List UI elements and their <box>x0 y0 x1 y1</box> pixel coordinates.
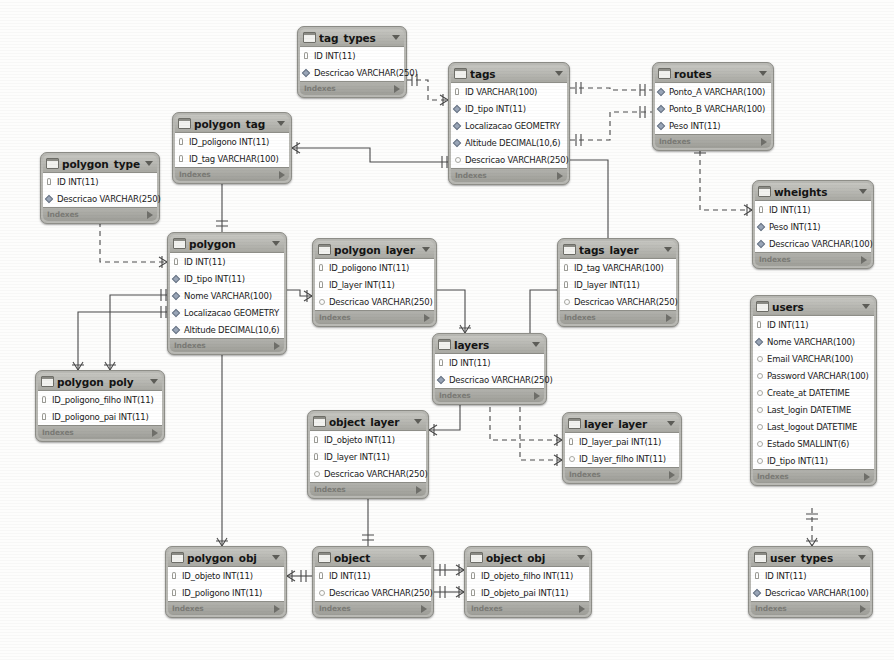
expand-indexes-icon[interactable] <box>534 392 540 400</box>
table-polygon_obj[interactable]: polygon_objID_objeto INT(11)ID_poligono … <box>165 546 287 618</box>
table-indexes-section-polygon_poly[interactable]: Indexes <box>38 426 162 439</box>
expand-indexes-icon[interactable] <box>666 314 672 322</box>
table-indexes-section-polygon_obj[interactable]: Indexes <box>168 602 284 615</box>
table-indexes-section-tags[interactable]: Indexes <box>451 169 567 182</box>
column-row[interactable]: ID INT(11) <box>435 354 544 371</box>
chevron-down-icon[interactable] <box>145 161 153 166</box>
chevron-down-icon[interactable] <box>272 241 280 246</box>
table-layer_layer[interactable]: layer_layerID_layer_pai INT(11)ID_layer_… <box>562 412 682 484</box>
table-routes[interactable]: routesPonto_A VARCHAR(100)Ponto_B VARCHA… <box>652 62 774 151</box>
chevron-down-icon[interactable] <box>150 379 158 384</box>
expand-indexes-icon[interactable] <box>861 256 867 264</box>
table-header-layers[interactable]: layers <box>435 336 544 353</box>
table-indexes-section-users[interactable]: Indexes <box>753 470 874 483</box>
table-users[interactable]: usersID INT(11)Nome VARCHAR(100)Email VA… <box>750 295 877 486</box>
column-row[interactable]: ID INT(11) <box>755 201 871 218</box>
column-row[interactable]: Altitude DECIMAL(10,6) <box>451 134 567 151</box>
column-row[interactable]: Estado SMALLINT(6) <box>753 435 874 452</box>
column-row[interactable]: ID_objeto_pai INT(11) <box>467 584 589 601</box>
column-row[interactable]: ID_tag VARCHAR(100) <box>560 259 676 276</box>
expand-indexes-icon[interactable] <box>147 211 153 219</box>
column-row[interactable]: Descricao VARCHAR(250) <box>310 465 426 482</box>
expand-indexes-icon[interactable] <box>860 605 866 613</box>
column-row[interactable]: ID INT(11) <box>751 567 870 584</box>
table-tags[interactable]: tagsID VARCHAR(100)ID_tipo INT(11)Locali… <box>448 62 570 185</box>
table-layers[interactable]: layersID INT(11)Descricao VARCHAR(250)In… <box>432 333 547 405</box>
column-row[interactable]: ID VARCHAR(100) <box>451 83 567 100</box>
table-polygon_tag[interactable]: polygon_tagID_poligono INT(11)ID_tag VAR… <box>172 112 292 184</box>
chevron-down-icon[interactable] <box>272 555 280 560</box>
column-row[interactable]: ID_layer INT(11) <box>315 276 434 293</box>
expand-indexes-icon[interactable] <box>152 429 158 437</box>
column-row[interactable]: Descricao VARCHAR(250) <box>451 151 567 168</box>
column-row[interactable]: Peso INT(11) <box>755 218 871 235</box>
table-header-object_obj[interactable]: object_obj <box>467 549 589 566</box>
expand-indexes-icon[interactable] <box>864 473 870 481</box>
column-row[interactable]: Nome VARCHAR(100) <box>170 287 284 304</box>
chevron-down-icon[interactable] <box>532 342 540 347</box>
table-header-polygon_type[interactable]: polygon_type <box>43 155 157 172</box>
column-row[interactable]: Localizacao GEOMETRY <box>451 117 567 134</box>
table-header-polygon_layer[interactable]: polygon_layer <box>315 241 434 258</box>
table-header-polygon_obj[interactable]: polygon_obj <box>168 549 284 566</box>
table-indexes-section-routes[interactable]: Indexes <box>655 135 771 148</box>
expand-indexes-icon[interactable] <box>424 314 430 322</box>
table-header-tags_layer[interactable]: tags_layer <box>560 241 676 258</box>
column-row[interactable]: Descricao VARCHAR(100) <box>755 235 871 252</box>
chevron-down-icon[interactable] <box>759 71 767 76</box>
table-indexes-section-tags_layer[interactable]: Indexes <box>560 311 676 324</box>
column-row[interactable]: Descricao VARCHAR(250) <box>43 190 157 207</box>
column-row[interactable]: Descricao VARCHAR(250) <box>315 584 431 601</box>
column-row[interactable]: Descricao VARCHAR(250) <box>435 371 544 388</box>
column-row[interactable]: Descricao VARCHAR(250) <box>300 64 404 81</box>
column-row[interactable]: ID_tipo INT(11) <box>753 452 874 469</box>
expand-indexes-icon[interactable] <box>669 471 675 479</box>
table-header-routes[interactable]: routes <box>655 65 771 82</box>
expand-indexes-icon[interactable] <box>557 172 563 180</box>
column-row[interactable]: Create_at DATETIME <box>753 384 874 401</box>
column-row[interactable]: ID_tipo INT(11) <box>451 100 567 117</box>
expand-indexes-icon[interactable] <box>274 605 280 613</box>
column-row[interactable]: ID INT(11) <box>753 316 874 333</box>
table-indexes-section-polygon[interactable]: Indexes <box>170 339 284 352</box>
column-row[interactable]: Last_login DATETIME <box>753 401 874 418</box>
expand-indexes-icon[interactable] <box>394 85 400 93</box>
column-row[interactable]: Nome VARCHAR(100) <box>753 333 874 350</box>
table-object_layer[interactable]: object_layerID_objeto INT(11)ID_layer IN… <box>307 410 429 499</box>
table-wheights[interactable]: wheightsID INT(11)Peso INT(11)Descricao … <box>752 180 874 269</box>
table-header-users[interactable]: users <box>753 298 874 315</box>
column-row[interactable]: ID_poligono INT(11) <box>315 259 434 276</box>
table-header-polygon_poly[interactable]: polygon_poly <box>38 373 162 390</box>
expand-indexes-icon[interactable] <box>421 605 427 613</box>
table-polygon[interactable]: polygonID INT(11)ID_tipo INT(11)Nome VAR… <box>167 232 287 355</box>
table-indexes-section-object_obj[interactable]: Indexes <box>467 602 589 615</box>
column-row[interactable]: ID_layer_pai INT(11) <box>565 433 679 450</box>
table-indexes-section-polygon_layer[interactable]: Indexes <box>315 311 434 324</box>
column-row[interactable]: Descricao VARCHAR(100) <box>751 584 870 601</box>
column-row[interactable]: ID_poligono_pai INT(11) <box>38 408 162 425</box>
column-row[interactable]: Altitude DECIMAL(10,6) <box>170 321 284 338</box>
table-header-tags[interactable]: tags <box>451 65 567 82</box>
expand-indexes-icon[interactable] <box>274 342 280 350</box>
chevron-down-icon[interactable] <box>422 247 430 252</box>
table-indexes-section-tag_types[interactable]: Indexes <box>300 82 404 95</box>
column-row[interactable]: ID_poligono_filho INT(11) <box>38 391 162 408</box>
column-row[interactable]: ID INT(11) <box>315 567 431 584</box>
column-row[interactable]: Ponto_A VARCHAR(100) <box>655 83 771 100</box>
table-indexes-section-object_layer[interactable]: Indexes <box>310 483 426 496</box>
chevron-down-icon[interactable] <box>277 121 285 126</box>
er-diagram-canvas[interactable]: tag_typesID INT(11)Descricao VARCHAR(250… <box>0 0 894 660</box>
table-indexes-section-polygon_tag[interactable]: Indexes <box>175 168 289 181</box>
column-row[interactable]: ID_layer_filho INT(11) <box>565 450 679 467</box>
expand-indexes-icon[interactable] <box>761 138 767 146</box>
column-row[interactable]: Password VARCHAR(100) <box>753 367 874 384</box>
table-indexes-section-layers[interactable]: Indexes <box>435 389 544 402</box>
column-row[interactable]: ID_poligono INT(11) <box>168 584 284 601</box>
chevron-down-icon[interactable] <box>664 247 672 252</box>
expand-indexes-icon[interactable] <box>279 171 285 179</box>
table-header-object_layer[interactable]: object_layer <box>310 413 426 430</box>
table-header-wheights[interactable]: wheights <box>755 183 871 200</box>
column-row[interactable]: Descricao VARCHAR(250) <box>560 293 676 310</box>
chevron-down-icon[interactable] <box>419 555 427 560</box>
table-indexes-section-layer_layer[interactable]: Indexes <box>565 468 679 481</box>
